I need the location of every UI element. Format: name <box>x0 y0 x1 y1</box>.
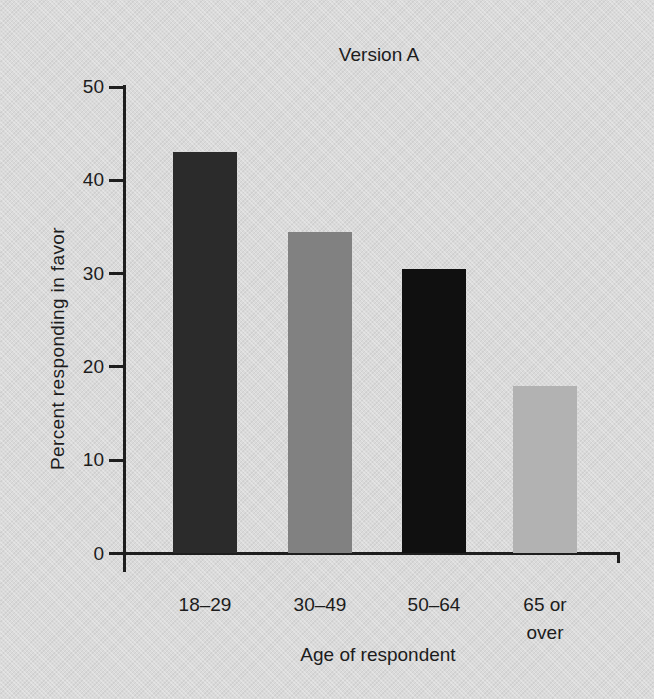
y-axis-tick <box>109 272 125 275</box>
x-category-label: 18–29 <box>172 591 238 619</box>
bar <box>288 232 352 554</box>
x-axis-title: Age of respondent <box>228 644 528 666</box>
y-tick-label: 30 <box>28 263 104 285</box>
y-tick-label: 50 <box>28 76 104 98</box>
y-tick-label: 0 <box>28 543 104 565</box>
bar <box>173 152 237 553</box>
bar <box>402 269 466 554</box>
y-tick-label: 40 <box>28 169 104 191</box>
y-axis-tick <box>109 365 125 368</box>
x-axis-end-tick <box>617 552 620 563</box>
x-category-label: 50–64 <box>401 591 467 619</box>
y-tick-label: 20 <box>28 356 104 378</box>
y-axis-line <box>123 85 126 572</box>
y-axis-tick <box>109 552 125 555</box>
y-axis-tick <box>109 459 125 462</box>
y-axis-tick <box>109 86 125 89</box>
chart-title: Version A <box>229 44 529 66</box>
bar <box>513 386 577 554</box>
figure-canvas: Version A Percent responding in favor Ag… <box>0 0 654 699</box>
y-tick-label: 10 <box>28 449 104 471</box>
x-category-label: 65 or over <box>512 591 578 647</box>
y-axis-tick <box>109 179 125 182</box>
x-category-label: 30–49 <box>287 591 353 619</box>
